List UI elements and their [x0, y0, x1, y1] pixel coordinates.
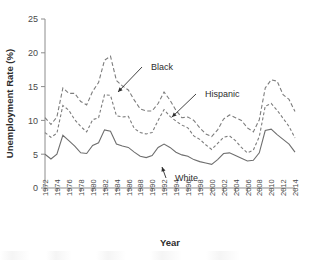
series-line-white [45, 129, 295, 164]
x-tick-label: 1982 [101, 179, 110, 196]
x-tick-label: 2012 [279, 179, 288, 196]
y-tick-label: 20 [28, 48, 38, 58]
y-tick-label: 0 [33, 183, 38, 193]
x-tick-label: 2008 [255, 179, 264, 196]
x-tick-label: 1972 [41, 179, 50, 196]
x-tick-label: 2006 [244, 179, 253, 196]
y-tick-label: 25 [28, 14, 38, 24]
x-tick-label: 1980 [89, 179, 98, 196]
x-tick-label: 1976 [65, 179, 74, 196]
annotation-leader-black [118, 67, 142, 92]
x-tick-label: 1986 [125, 179, 134, 196]
y-axis-title: Unemployment Rate (%) [4, 49, 15, 158]
x-axis-title: Year [160, 237, 180, 248]
annotation-leader-hispanic [172, 94, 196, 117]
annotation-arrowhead-white [162, 167, 166, 172]
series-label-hispanic: Hispanic [205, 89, 240, 99]
x-tick-label: 1978 [77, 179, 86, 196]
x-tick-label: 2004 [232, 179, 241, 196]
x-tick-label: 1992 [160, 179, 169, 196]
x-tick-label: 1974 [53, 179, 62, 196]
x-tick-label: 1988 [136, 179, 145, 196]
y-tick-label: 5 [33, 150, 38, 160]
x-tick-label: 1990 [148, 179, 157, 196]
series-label-black: Black [151, 62, 174, 72]
x-tick-label: 1984 [113, 179, 122, 196]
x-tick-label: 2002 [220, 179, 229, 196]
chart-canvas: 0510152025197219741976197819801982198419… [0, 0, 309, 260]
y-tick-label: 15 [28, 82, 38, 92]
unemployment-rate-chart: 0510152025197219741976197819801982198419… [0, 0, 309, 260]
x-tick-label: 2014 [291, 179, 300, 196]
x-tick-label: 2010 [267, 179, 276, 196]
y-tick-label: 10 [28, 116, 38, 126]
page-edge-artifact [0, 251, 309, 260]
x-tick-label: 2000 [208, 179, 217, 196]
series-label-white: White [175, 173, 198, 183]
